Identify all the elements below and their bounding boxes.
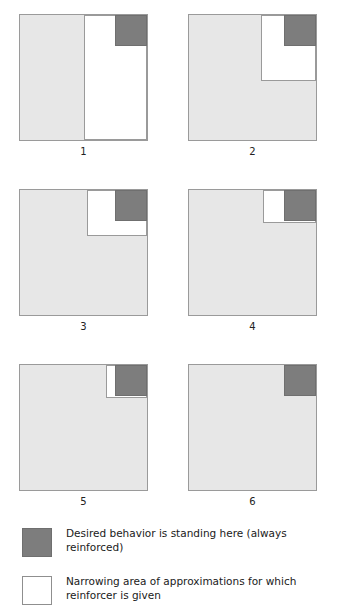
legend-label-desired-behavior: Desired behavior is standing here (alway…: [66, 527, 332, 554]
panel-3: 3: [12, 183, 162, 358]
panel-3-label: 3: [12, 321, 155, 332]
legend-item-reinforced-area: Narrowing area of approximations for whi…: [22, 576, 332, 610]
panel-4-label: 4: [181, 321, 324, 332]
panel-5: 5: [12, 358, 162, 533]
panel-4: 4: [181, 183, 331, 358]
panel-5-desired-behavior: [115, 365, 147, 396]
panel-3-box: [19, 189, 148, 316]
panel-1-desired-behavior: [115, 15, 147, 46]
legend-label-reinforced-area: Narrowing area of approximations for whi…: [66, 575, 332, 602]
panel-2-label: 2: [181, 146, 324, 157]
legend-swatch-white: [22, 576, 52, 605]
panel-5-label: 5: [12, 496, 155, 507]
legend-swatch-dark: [22, 528, 52, 557]
panel-5-box: [19, 364, 148, 491]
shaping-diagram-figure: 1 2 3: [0, 0, 339, 610]
panel-4-desired-behavior: [284, 190, 316, 221]
panel-6-box: [188, 364, 317, 491]
panel-row-3: 5 6: [0, 358, 339, 533]
panel-grid: 1 2 3: [0, 8, 339, 533]
panel-1: 1: [12, 8, 162, 183]
panel-1-box: [19, 14, 148, 141]
panel-2-desired-behavior: [284, 15, 316, 46]
panel-3-desired-behavior: [115, 190, 147, 221]
panel-2-box: [188, 14, 317, 141]
legend: Desired behavior is standing here (alway…: [22, 528, 332, 610]
panel-6-desired-behavior: [284, 365, 316, 396]
panel-6: 6: [181, 358, 331, 533]
panel-1-label: 1: [12, 146, 155, 157]
legend-item-desired-behavior: Desired behavior is standing here (alway…: [22, 528, 332, 568]
panel-row-2: 3 4: [0, 183, 339, 358]
panel-6-label: 6: [181, 496, 324, 507]
panel-row-1: 1 2: [0, 8, 339, 183]
panel-4-box: [188, 189, 317, 316]
panel-2: 2: [181, 8, 331, 183]
panel-1-approximation-region: [20, 15, 84, 140]
